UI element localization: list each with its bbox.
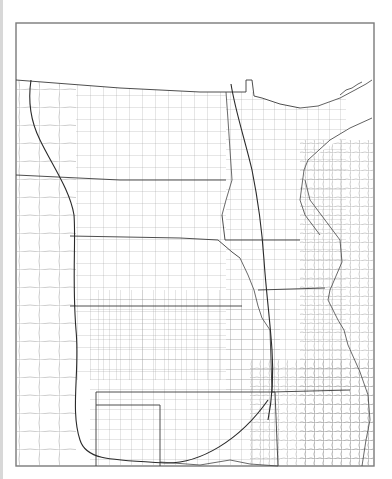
land-area: [16, 80, 374, 466]
county-map: [0, 0, 392, 479]
